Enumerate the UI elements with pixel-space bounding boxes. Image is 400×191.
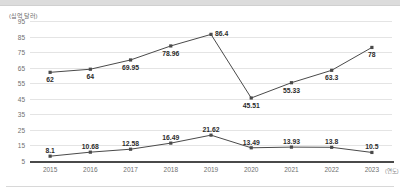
x-axis-tick-label: 2016 xyxy=(83,166,97,173)
y-axis-tick-label: 65 xyxy=(18,64,25,71)
bottom-rule xyxy=(6,186,394,187)
x-axis-tick-label: 2017 xyxy=(123,166,137,173)
x-axis-tick-label: 2018 xyxy=(164,166,178,173)
data-point-marker xyxy=(209,134,212,137)
data-point-label: 63.3 xyxy=(325,74,338,81)
y-axis-tick-label: 75 xyxy=(18,49,25,56)
data-point-marker xyxy=(89,68,92,71)
series-line xyxy=(50,34,372,98)
x-axis-tick-label: 2015 xyxy=(43,166,57,173)
y-axis-tick-label: 55 xyxy=(18,80,25,87)
data-point-marker xyxy=(129,58,132,61)
data-point-label: 13.49 xyxy=(243,139,260,146)
x-axis-baseline xyxy=(30,161,394,163)
data-point-marker xyxy=(250,146,253,149)
data-point-marker xyxy=(49,155,52,158)
y-axis-tick-label: 45 xyxy=(18,95,25,102)
data-point-label: 55.33 xyxy=(283,87,300,94)
data-point-label: 10.5 xyxy=(365,143,378,150)
y-axis-tick-label: 35 xyxy=(18,111,25,118)
data-point-label: 12.58 xyxy=(122,140,139,147)
data-point-label: 13.93 xyxy=(283,138,300,145)
data-point-marker xyxy=(89,151,92,154)
x-axis-tick-label: 2022 xyxy=(324,166,338,173)
x-axis-tick-labels: 201520162017201820192020202120222023(연도) xyxy=(30,166,392,178)
y-axis-tick-label: 15 xyxy=(18,142,25,149)
data-point-label: 78 xyxy=(368,51,376,58)
data-point-label: 10.68 xyxy=(82,143,99,150)
data-point-marker xyxy=(370,151,373,154)
data-point-label: 69.95 xyxy=(122,64,139,71)
top-band xyxy=(0,0,400,6)
chart-container: (십억 달러) 9585756555453525155 626469.9578.… xyxy=(0,0,400,191)
data-point-label: 78.96 xyxy=(162,50,179,57)
data-point-label: 21.62 xyxy=(202,126,219,133)
y-axis-tick-label: 85 xyxy=(18,33,25,40)
x-axis-tick-label: 2021 xyxy=(284,166,298,173)
data-point-label: 13.8 xyxy=(325,138,338,145)
data-point-marker xyxy=(129,148,132,151)
data-point-label: 62 xyxy=(46,76,54,83)
data-point-marker xyxy=(330,146,333,149)
data-point-marker xyxy=(290,81,293,84)
y-axis-tick-label: 5 xyxy=(21,158,25,165)
data-point-label: 45.51 xyxy=(243,102,260,109)
data-point-marker xyxy=(290,146,293,149)
plot-area: 626469.9578.9686.445.5155.3363.3788.110.… xyxy=(30,21,392,161)
y-axis-tick-label: 25 xyxy=(18,126,25,133)
x-axis-unit-label: (연도) xyxy=(385,167,399,175)
data-point-marker xyxy=(330,69,333,72)
x-axis-tick-label: 2023 xyxy=(365,166,379,173)
data-point-marker xyxy=(169,142,172,145)
data-point-label: 16.49 xyxy=(162,134,179,141)
y-axis-tick-labels: 9585756555453525155 xyxy=(0,21,28,161)
x-axis-tick-label: 2020 xyxy=(244,166,258,173)
data-point-label: 86.4 xyxy=(215,30,228,37)
data-point-marker xyxy=(370,46,373,49)
data-point-marker xyxy=(169,44,172,47)
data-point-label: 8.1 xyxy=(45,147,54,154)
data-point-marker xyxy=(250,96,253,99)
y-axis-tick-label: 95 xyxy=(18,18,25,25)
data-point-marker xyxy=(209,33,212,36)
data-point-label: 64 xyxy=(87,73,95,80)
x-axis-tick-label: 2019 xyxy=(204,166,218,173)
data-point-marker xyxy=(49,71,52,74)
